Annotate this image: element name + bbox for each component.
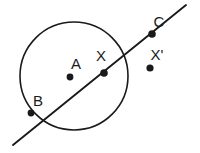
point-dot-C	[148, 30, 156, 38]
point-dot-A	[67, 74, 74, 81]
point-label-C: C	[154, 13, 165, 30]
point-dot-B	[28, 110, 35, 117]
geometry-figure: A B X C X'	[0, 0, 200, 153]
point-dot-Xprime	[146, 64, 153, 71]
point-label-Xprime: X'	[151, 46, 164, 63]
point-label-A: A	[71, 55, 81, 72]
point-dot-X	[100, 69, 108, 77]
point-label-X: X	[96, 47, 106, 64]
point-label-B: B	[33, 92, 43, 109]
geometry-canvas: A B X C X'	[0, 0, 200, 153]
